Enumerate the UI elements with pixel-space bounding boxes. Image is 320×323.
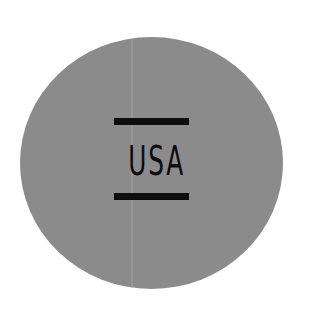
usa-badge: USA — [20, 37, 283, 289]
badge-label: USA — [128, 141, 175, 181]
top-rule-bar — [114, 118, 189, 125]
bottom-rule-bar — [114, 193, 189, 200]
